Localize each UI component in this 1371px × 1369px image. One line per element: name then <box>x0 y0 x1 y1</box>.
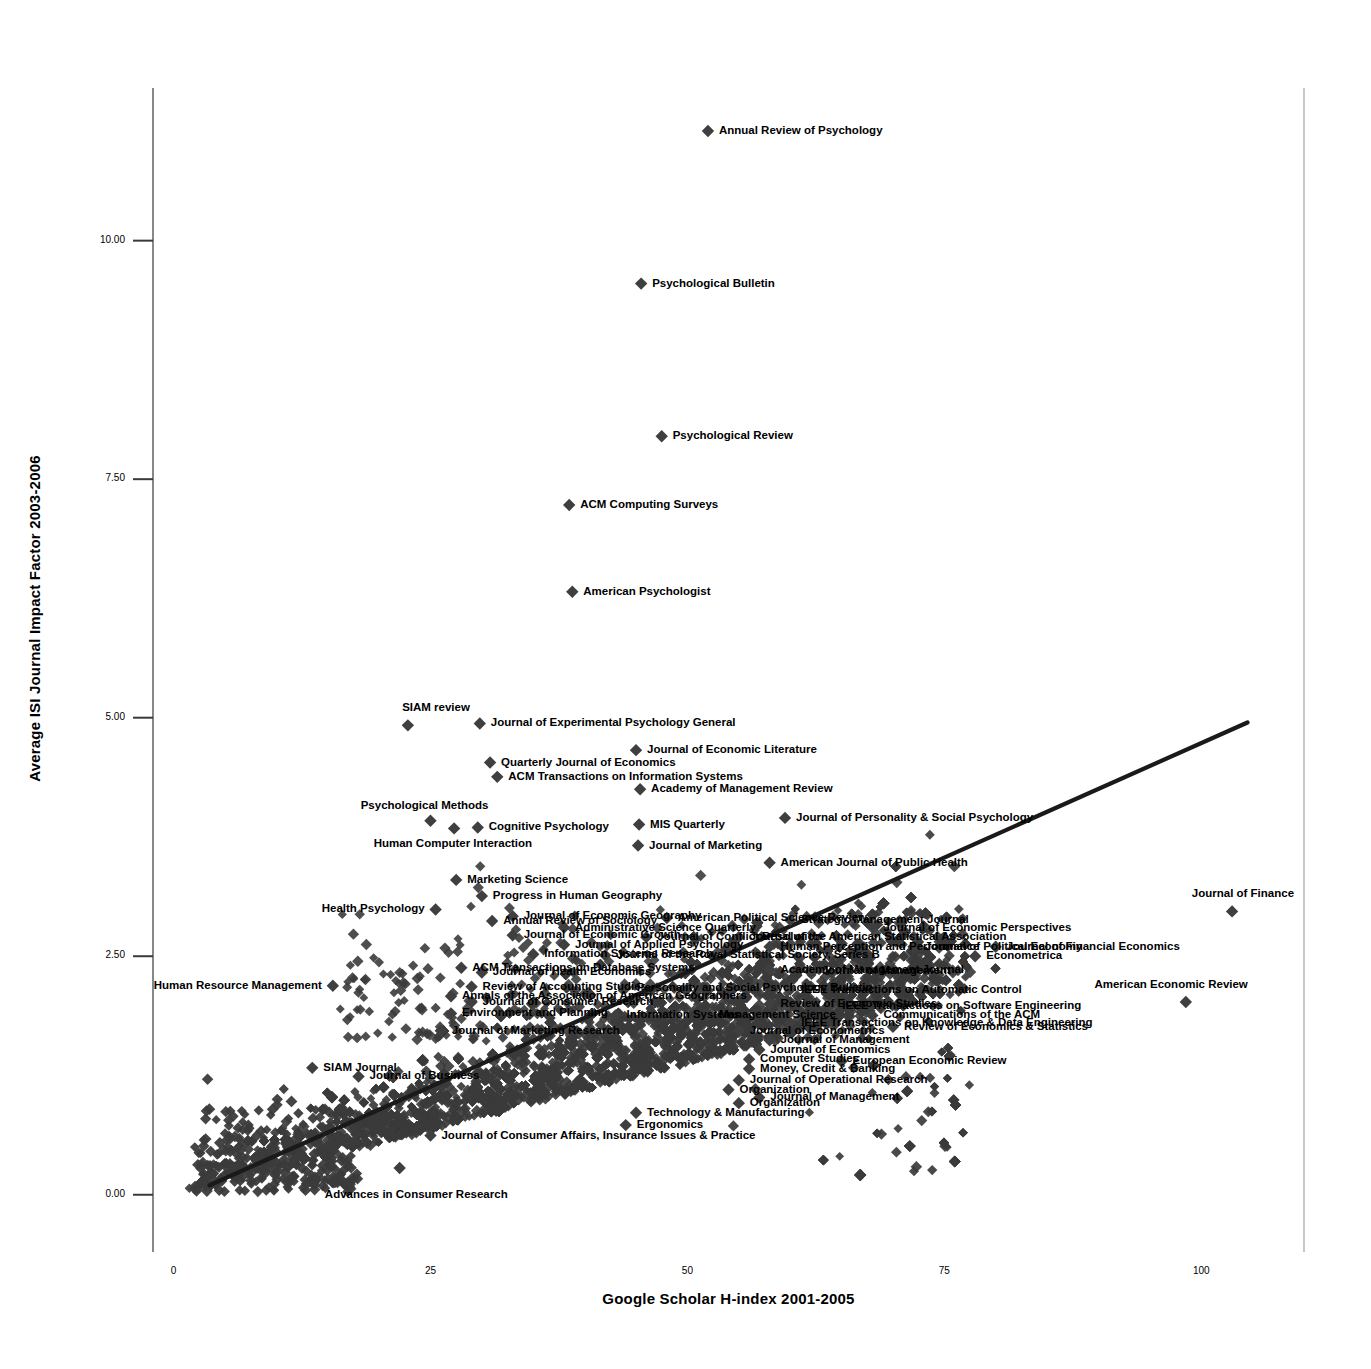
point-label: Psychological Methods <box>361 799 489 811</box>
x-axis-title: Google Scholar H-index 2001-2005 <box>153 1290 1304 1307</box>
y-tick-label: 0.00 <box>65 1188 125 1199</box>
point-label: Journal of Health Economics <box>493 965 651 977</box>
point-label: Journal of Personality & Social Psycholo… <box>796 811 1033 823</box>
x-tick-label: 0 <box>154 1265 194 1276</box>
x-tick-label: 25 <box>410 1265 450 1276</box>
point-label: Journal of Economic Literature <box>647 743 817 755</box>
point-label: Money, Credit & Banking <box>760 1062 895 1074</box>
plot-canvas <box>0 0 1371 1369</box>
point-label: Quarterly Journal of Economics <box>501 756 675 768</box>
point-label: Psychological Review <box>673 429 793 441</box>
point-label: Marketing Science <box>467 873 568 885</box>
x-tick-label: 100 <box>1181 1265 1221 1276</box>
scatter-plot-figure: Average ISI Journal Impact Factor 2003-2… <box>0 0 1371 1369</box>
point-label: Journal of Business <box>370 1069 480 1081</box>
point-label: American Economic Review <box>1094 978 1247 990</box>
point-label: American Psychologist <box>583 585 710 597</box>
point-label: Journal of Management <box>822 964 951 976</box>
point-label: Journal of Consumer Research <box>483 995 654 1007</box>
point-label: Information Systems Research <box>544 947 713 959</box>
point-label: American Journal of Public Health <box>781 856 968 868</box>
point-label: Advances in Consumer Research <box>325 1188 508 1200</box>
point-label: Psychological Bulletin <box>652 277 775 289</box>
point-label: Progress in Human Geography <box>493 889 662 901</box>
point-label: Journal of Experimental Psychology Gener… <box>491 716 736 728</box>
point-label: SIAM review <box>402 701 470 713</box>
point-label: Health Psychology <box>322 902 425 914</box>
point-label: Review of Economics & Statistics <box>904 1020 1088 1032</box>
point-label: Environment and Planning <box>462 1006 608 1018</box>
point-label: Annual Review of Psychology <box>719 124 883 136</box>
point-label: Journal of Consumer Affairs, Insurance I… <box>441 1129 755 1141</box>
point-label: Cognitive Psychology <box>489 820 609 832</box>
point-label: Human Computer Interaction <box>374 837 532 849</box>
point-label: Academy of Management Review <box>651 782 833 794</box>
point-label: ACM Computing Surveys <box>580 498 718 510</box>
y-tick-label: 10.00 <box>65 234 125 245</box>
x-tick-label: 75 <box>924 1265 964 1276</box>
point-label: MIS Quarterly <box>650 818 725 830</box>
y-tick-label: 2.50 <box>65 949 125 960</box>
point-label: ACM Transactions on Information Systems <box>508 770 743 782</box>
point-label: Journal of Finance <box>1192 887 1294 899</box>
point-label: Journal of Marketing <box>649 839 762 851</box>
y-tick-label: 7.50 <box>65 472 125 483</box>
point-label: Technology & Manufacturing <box>647 1106 805 1118</box>
y-tick-label: 5.00 <box>65 711 125 722</box>
point-label: IEEE Transactions on Automatic Control <box>801 983 1022 995</box>
point-label: Journal of Marketing Research <box>452 1024 620 1036</box>
y-axis-title: Average ISI Journal Impact Factor 2003-2… <box>26 299 43 939</box>
x-tick-label: 50 <box>667 1265 707 1276</box>
point-label: Econometrica <box>986 949 1062 961</box>
point-label: Human Resource Management <box>154 979 322 991</box>
